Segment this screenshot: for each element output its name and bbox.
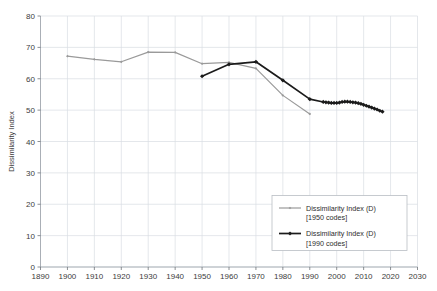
y-axis-title: Dissimilarity Index (7, 111, 16, 172)
x-tick-label: 1980 (274, 272, 292, 281)
y-axis-ticks: 01020304050607080 (26, 12, 40, 272)
x-tick-label: 2020 (382, 272, 400, 281)
y-tick-label: 20 (26, 200, 35, 209)
legend-label-line1: Dissimilarity Index (D) (306, 204, 376, 213)
chart-legend: Dissimilarity Index (D)[1950 codes]Dissi… (272, 196, 407, 251)
x-tick-label: 1970 (247, 272, 265, 281)
x-tick-label: 1950 (193, 272, 211, 281)
series-1 (66, 51, 311, 116)
x-tick-label: 1910 (85, 272, 103, 281)
data-point-marker (93, 58, 96, 61)
x-tick-label: 1960 (220, 272, 238, 281)
x-tick-label: 1920 (112, 272, 130, 281)
y-tick-label: 80 (26, 12, 35, 21)
legend-label-line2: [1990 codes] (306, 239, 347, 248)
y-tick-label: 60 (26, 75, 35, 84)
legend-label-line2: [1950 codes] (306, 213, 347, 222)
y-tick-label: 10 (26, 232, 35, 241)
x-tick-label: 1990 (301, 272, 319, 281)
legend-label-line1: Dissimilarity Index (D) (306, 229, 376, 238)
x-tick-label: 1890 (32, 272, 50, 281)
x-tick-label: 1900 (59, 272, 77, 281)
data-point-marker (66, 55, 69, 58)
line-chart: 0102030405060708018901900191019201930194… (0, 0, 437, 291)
series-2 (200, 60, 385, 114)
x-tick-label: 1930 (139, 272, 157, 281)
x-tick-label: 2010 (355, 272, 373, 281)
y-tick-label: 30 (26, 169, 35, 178)
x-tick-label: 1940 (166, 272, 184, 281)
x-tick-label: 2030 (409, 272, 427, 281)
series-line (67, 52, 309, 114)
y-tick-label: 70 (26, 43, 35, 52)
x-axis-ticks: 1890190019101920193019401950196019701980… (32, 267, 427, 281)
x-tick-label: 2000 (328, 272, 346, 281)
chart-container: 0102030405060708018901900191019201930194… (0, 0, 437, 291)
y-tick-label: 40 (26, 138, 35, 147)
y-tick-label: 50 (26, 106, 35, 115)
